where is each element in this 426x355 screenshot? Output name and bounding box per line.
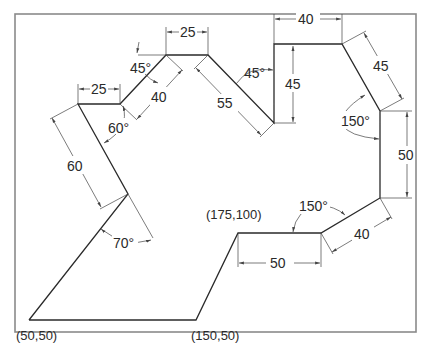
angle-bottom-left-70: 70° bbox=[101, 194, 153, 251]
dim-label: 40 bbox=[298, 11, 314, 27]
dim-right-vertical-50: 50 bbox=[380, 111, 415, 198]
dim-label: 60 bbox=[67, 158, 83, 174]
coordinate-label-175-100: (175,100) bbox=[206, 207, 262, 222]
angle-lower-right-150: 150° bbox=[293, 197, 345, 232]
dim-left-horizontal-25: 25 bbox=[78, 81, 120, 104]
angle-label: 45° bbox=[130, 60, 151, 76]
dim-label: 40 bbox=[354, 226, 370, 242]
dim-top-right-horizontal-40: 40 bbox=[274, 11, 342, 44]
angle-upper-left-45: 45° bbox=[130, 42, 166, 83]
angle-upper-right-150: 150° bbox=[340, 95, 379, 139]
coordinate-label-150-50: (150,50) bbox=[191, 328, 239, 343]
dim-bottom-horizontal-50: 50 bbox=[238, 233, 321, 271]
dim-label: 45 bbox=[373, 58, 389, 74]
angle-center-45: 45° bbox=[236, 65, 273, 84]
dim-top-horizontal-25: 25 bbox=[166, 24, 208, 55]
dim-center-vertical-45: 45 bbox=[274, 46, 304, 123]
dim-label: 45 bbox=[285, 76, 301, 92]
angle-label: 150° bbox=[341, 113, 370, 129]
dim-label: 25 bbox=[180, 24, 196, 40]
dimension-drawing: 50 40 50 45 40 45 bbox=[0, 0, 426, 355]
angle-label: 150° bbox=[299, 198, 328, 214]
dim-label: 50 bbox=[270, 255, 286, 271]
dim-label: 50 bbox=[398, 147, 414, 163]
part-profile bbox=[29, 44, 380, 320]
angle-label: 70° bbox=[113, 235, 134, 251]
dim-label: 55 bbox=[217, 95, 233, 111]
dim-label: 25 bbox=[91, 81, 107, 97]
coordinate-label-50-50: (50,50) bbox=[16, 328, 57, 343]
dim-label: 40 bbox=[151, 89, 167, 105]
angle-label: 60° bbox=[108, 120, 129, 136]
angle-label: 45° bbox=[244, 65, 265, 81]
angle-left-60: 60° bbox=[104, 106, 131, 143]
